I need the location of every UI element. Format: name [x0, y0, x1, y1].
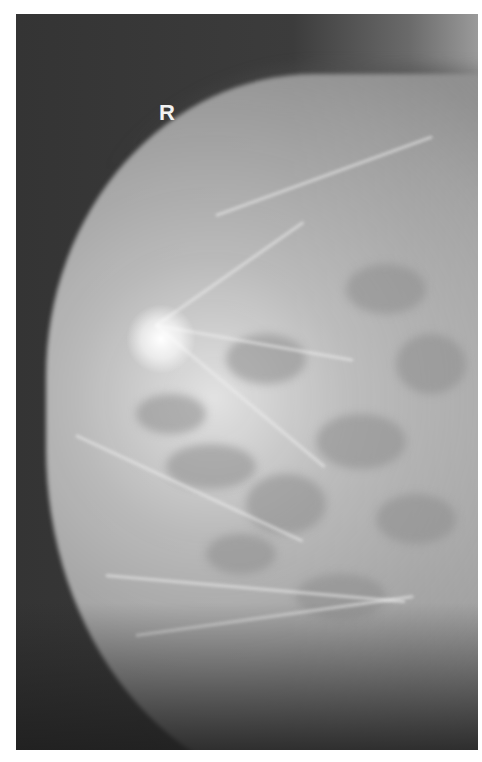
radiograph-image: [16, 14, 478, 750]
laterality-marker: R: [159, 100, 175, 126]
film-bottom-shadow: [16, 14, 478, 750]
